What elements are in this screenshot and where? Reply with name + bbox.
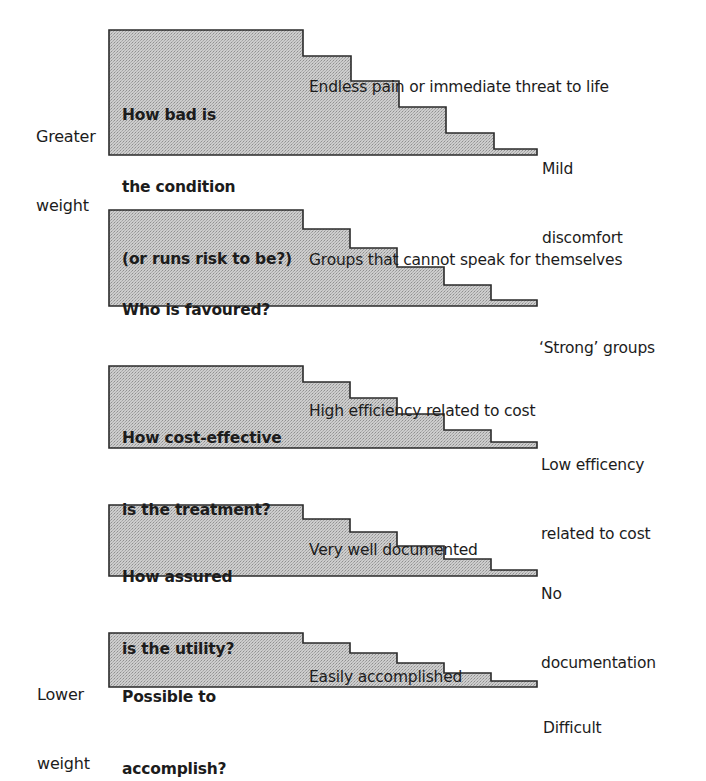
question-line: How bad is [122, 103, 292, 127]
greater-weight-line-1: Greater [36, 125, 96, 148]
question-line: How assured [122, 565, 234, 589]
lower-weight-label: Lower weight [37, 637, 90, 781]
high-label-line: Easily accomplished [309, 666, 462, 689]
lower-weight-line-2: weight [37, 752, 90, 775]
question-feasibility: Possible to accomplish? [122, 637, 226, 781]
question-line: Possible to [122, 685, 226, 709]
question-line: How cost-effective [122, 426, 282, 450]
low-label-line: Difficult [543, 717, 601, 740]
lower-weight-line-1: Lower [37, 683, 90, 706]
greater-weight-label: Greater weight [36, 79, 96, 263]
low-label-favoured: ‘Strong’ groups [539, 291, 655, 406]
greater-weight-line-2: weight [36, 194, 96, 217]
low-label-line: ‘Strong’ groups [539, 337, 655, 360]
high-label-line: Endless pain or immediate threat to life [309, 76, 609, 99]
high-label-feasibility: Easily accomplished [309, 620, 462, 735]
low-label-feasibility: Difficult [543, 671, 601, 781]
question-line: the condition [122, 175, 292, 199]
high-label-line: Groups that cannot speak for themselves [309, 249, 622, 272]
high-label-line: Very well documented [309, 539, 478, 562]
high-label-line: High efficiency related to cost [309, 400, 535, 423]
low-label-line: Low efficency [541, 454, 650, 477]
question-line: accomplish? [122, 757, 226, 781]
high-label-cost: High efficiency related to cost [309, 354, 535, 469]
low-label-line: Mild [542, 158, 623, 181]
question-line: Who is favoured? [122, 298, 270, 322]
question-who-favoured: Who is favoured? [122, 250, 270, 370]
low-label-line: No [541, 583, 656, 606]
high-label-utility: Very well documented [309, 493, 478, 608]
